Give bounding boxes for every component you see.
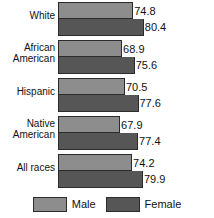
- bars-hispanic: 70.5 77.6: [58, 78, 139, 112]
- bar-female-white: 80.4: [58, 19, 144, 36]
- legend-item-female: Female: [106, 197, 182, 212]
- bar-male-african-american: 68.9: [58, 40, 122, 57]
- legend-swatch-male-icon: [33, 197, 67, 212]
- bars-all-races: 74.2 79.9: [58, 154, 143, 188]
- value-label-male-native-american: 67.9: [121, 119, 142, 130]
- legend-label-female: Female: [145, 199, 182, 210]
- bar-chart: White 74.8 80.4 African American 68.9: [0, 0, 214, 218]
- bar-female-african-american: 75.6: [58, 57, 135, 74]
- category-label-african-american: African American: [0, 42, 55, 64]
- bar-female-hispanic: 77.6: [58, 95, 139, 112]
- bar-male-hispanic: 70.5: [58, 78, 125, 95]
- category-label-line1: African: [0, 42, 55, 53]
- plot-area: White 74.8 80.4 African American 68.9: [0, 0, 214, 190]
- value-label-male-all-races: 74.2: [133, 157, 154, 168]
- category-label-white: White: [0, 10, 55, 21]
- bar-female-all-races: 79.9: [58, 171, 143, 188]
- bar-male-white: 74.8: [58, 2, 133, 19]
- value-label-male-hispanic: 70.5: [126, 81, 147, 92]
- value-label-female-hispanic: 77.6: [140, 98, 161, 109]
- category-label-line1: Native: [0, 118, 55, 129]
- bars-white: 74.8 80.4: [58, 2, 144, 36]
- bar-male-all-races: 74.2: [58, 154, 132, 171]
- category-label-all-races: All races: [0, 162, 55, 173]
- legend-label-male: Male: [72, 199, 96, 210]
- chart-legend: Male Female: [0, 190, 214, 218]
- legend-swatch-female-icon: [106, 197, 140, 212]
- bar-male-native-american: 67.9: [58, 116, 120, 133]
- category-label-line1: Hispanic: [0, 86, 55, 97]
- bars-african-american: 68.9 75.6: [58, 40, 135, 74]
- category-label-line2: American: [0, 53, 55, 64]
- category-label-line1: White: [0, 10, 55, 21]
- value-label-female-african-american: 75.6: [136, 60, 157, 71]
- value-label-male-african-american: 68.9: [123, 43, 144, 54]
- value-label-female-native-american: 77.4: [139, 136, 160, 147]
- value-label-female-all-races: 79.9: [144, 174, 165, 185]
- bar-female-native-american: 77.4: [58, 133, 138, 150]
- value-label-female-white: 80.4: [145, 22, 166, 33]
- bars-native-american: 67.9 77.4: [58, 116, 138, 150]
- category-label-line1: All races: [0, 162, 55, 173]
- category-label-hispanic: Hispanic: [0, 86, 55, 97]
- category-label-line2: American: [0, 129, 55, 140]
- legend-item-male: Male: [33, 197, 96, 212]
- category-label-native-american: Native American: [0, 118, 55, 140]
- value-label-male-white: 74.8: [134, 5, 155, 16]
